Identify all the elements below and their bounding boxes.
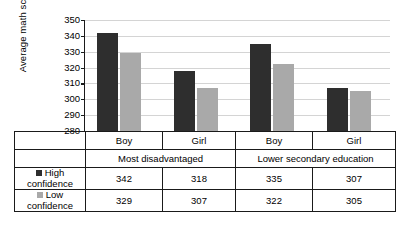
legend-low-confidence: Lowconfidence [15, 190, 86, 212]
y-axis-title: Average math score [17, 0, 31, 89]
y-tick-label-350: 350 [54, 15, 80, 25]
bar-high-3 [327, 88, 348, 131]
legend-label-high-line1: High [45, 167, 65, 178]
bar-low-3 [350, 91, 371, 131]
group-header-1: Lower secondary education [236, 150, 396, 168]
y-tick-label-340: 340 [54, 31, 80, 41]
y-tick-label-290: 290 [54, 110, 80, 120]
bar-high-2 [250, 44, 271, 131]
table-row-group-headers: Most disadvantaged Lower secondary educa… [15, 150, 396, 168]
table-row-sex-headers: Boy Girl Boy Girl [15, 132, 396, 150]
bar-group-3 [315, 20, 392, 131]
plot-area [84, 20, 390, 131]
cell-low-0: 329 [86, 190, 163, 212]
y-tick-label-300: 300 [54, 94, 80, 104]
cell-high-1: 318 [163, 168, 236, 190]
table-row: Lowconfidence 329 307 322 305 [15, 190, 396, 212]
bar-low-0 [120, 53, 141, 131]
bar-chart-figure: Average math score 350340330320310300290… [0, 0, 403, 234]
sex-header-0: Boy [86, 132, 163, 150]
bar-group-1 [162, 20, 239, 131]
stub-blank-group [15, 150, 86, 168]
y-tick-label-320: 320 [54, 63, 80, 73]
bar-group-2 [238, 20, 315, 131]
cell-low-1: 307 [163, 190, 236, 212]
cell-high-2: 335 [236, 168, 313, 190]
legend-swatch-icon-high [36, 170, 42, 176]
sex-header-1: Girl [163, 132, 236, 150]
bar-low-2 [273, 64, 294, 131]
group-header-0: Most disadvantaged [86, 150, 236, 168]
bar-low-1 [197, 88, 218, 131]
bar-high-0 [97, 33, 118, 131]
y-tick-label-330: 330 [54, 47, 80, 57]
cell-high-0: 342 [86, 168, 163, 190]
cell-high-3: 307 [313, 168, 396, 190]
legend-label-low-line1: Low [46, 189, 63, 200]
bar-group-0 [85, 20, 162, 131]
cell-low-2: 322 [236, 190, 313, 212]
y-tick-label-310: 310 [54, 78, 80, 88]
sex-header-2: Boy [236, 132, 313, 150]
sex-header-3: Girl [313, 132, 396, 150]
legend-label-high-line2: confidence [27, 178, 73, 189]
legend-label-low-line2: confidence [27, 200, 73, 211]
legend-swatch-icon-low [37, 192, 43, 198]
data-table: Boy Girl Boy Girl Most disadvantaged Low… [14, 131, 396, 212]
legend-high-confidence: Highconfidence [15, 168, 86, 190]
cell-low-3: 305 [313, 190, 396, 212]
stub-blank-sex [15, 132, 86, 150]
table-row: Highconfidence 342 318 335 307 [15, 168, 396, 190]
bar-high-1 [174, 71, 195, 131]
